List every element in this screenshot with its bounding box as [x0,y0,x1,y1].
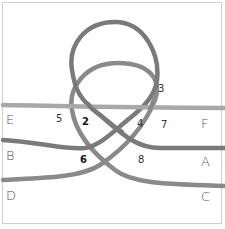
crossing-4: 4 [137,119,143,129]
label-a: A [201,155,210,168]
label-f: F [201,117,208,130]
crossing-5: 5 [56,114,62,124]
label-b: B [6,149,15,162]
crossing-7: 7 [161,120,167,130]
crossing-8: 8 [138,155,144,165]
label-e: E [6,113,14,126]
strand-b-to-a [3,22,225,148]
crossing-2: 2 [82,117,89,127]
label-c: C [201,190,210,203]
label-d: D [6,189,16,202]
strand-e-to-f [3,105,225,108]
knot-drawing [0,0,225,229]
crossing-3: 3 [158,84,164,94]
crossing-6: 6 [80,155,87,165]
